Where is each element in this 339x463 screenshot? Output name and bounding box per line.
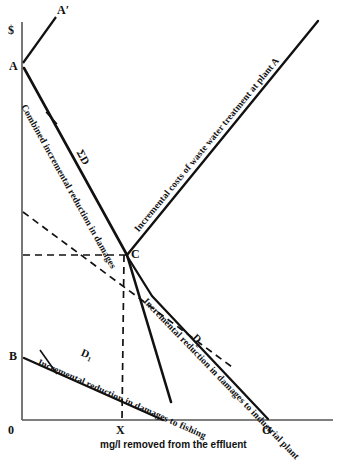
figure-incremental-damages-chart: $ A′ A B C O X 0 ΣD D₁ D₂ Combined incre…	[0, 0, 339, 463]
point-label-C: C	[131, 248, 140, 260]
point-label-A-prime: A′	[57, 4, 69, 16]
origin-label: 0	[8, 424, 14, 436]
y-axis-dollar-symbol: $	[8, 24, 14, 36]
x-axis-title: mg/l removed from the effluent	[100, 440, 247, 450]
point-label-A: A	[9, 60, 18, 72]
chart-canvas	[0, 0, 339, 463]
a-prime-segment	[23, 17, 56, 63]
sumd-leader-line	[46, 112, 57, 124]
point-label-B: B	[9, 350, 17, 362]
curve-treatment-cost-line	[127, 21, 318, 255]
point-label-X: X	[116, 424, 125, 436]
